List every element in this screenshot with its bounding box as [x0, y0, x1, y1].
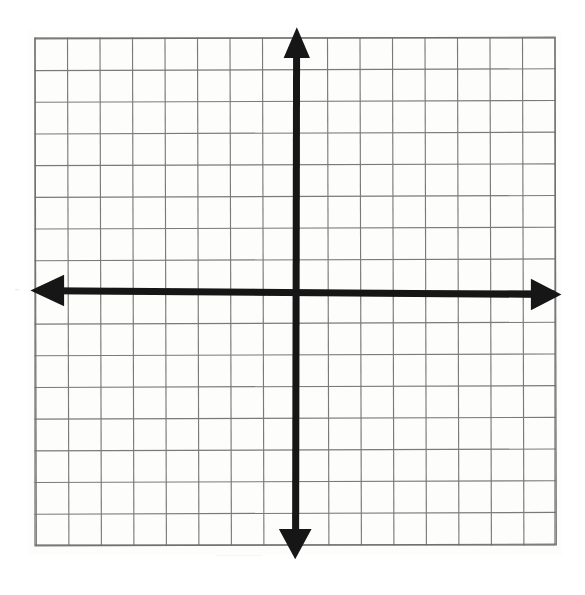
scan-speck	[15, 289, 19, 290]
y-axis-line	[296, 42, 297, 543]
worksheet-page: Blank coordinate plane Scanned blank Car…	[0, 0, 585, 595]
coordinate-plane-figure	[0, 0, 585, 595]
scan-speck	[216, 555, 262, 556]
